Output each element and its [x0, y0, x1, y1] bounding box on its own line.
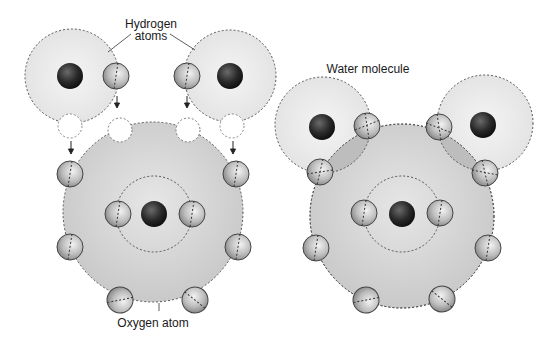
leader-line — [170, 34, 195, 50]
shared-electron — [354, 113, 380, 139]
oxygen-nucleus — [389, 201, 415, 227]
vacancy-notch — [108, 118, 132, 142]
oxygen-nucleus — [141, 201, 167, 227]
water-molecule-formation-diagram: Hydrogen atoms Oxygen atom Water molecul… — [0, 0, 557, 342]
electron — [174, 63, 200, 89]
hydrogen-nucleus — [470, 112, 496, 138]
electron — [303, 235, 329, 261]
electron — [179, 201, 205, 227]
vacancy-notch — [176, 118, 200, 142]
right-panel-water-molecule: Water molecule — [275, 62, 533, 317]
electron — [351, 200, 377, 226]
hydrogen-atoms-label: atoms — [135, 29, 168, 43]
electron — [105, 201, 131, 227]
electron — [57, 161, 83, 187]
water-molecule-label: Water molecule — [327, 62, 410, 76]
electron — [475, 235, 501, 261]
electron — [223, 161, 249, 187]
oxygen-atom-left — [57, 118, 251, 318]
hydrogen-vacancy — [58, 114, 82, 138]
hydrogen-nucleus — [57, 63, 83, 89]
hydrogen-nucleus — [217, 63, 243, 89]
hydrogen-nucleus — [309, 114, 335, 140]
electron — [427, 200, 453, 226]
shared-electron — [307, 159, 333, 185]
oxygen-atom-label: Oxygen atom — [117, 316, 188, 330]
hydrogen-vacancy — [220, 114, 244, 138]
leader-line — [108, 34, 131, 52]
electron — [103, 63, 129, 89]
left-panel-separate-atoms: Hydrogen atoms Oxygen atom — [25, 17, 276, 330]
shared-electron — [426, 114, 452, 140]
electron — [57, 234, 83, 260]
electron — [225, 234, 251, 260]
shared-electron — [472, 160, 498, 186]
